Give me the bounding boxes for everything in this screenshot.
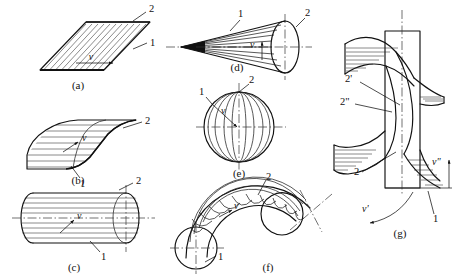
axial-velocity-label: v" (432, 156, 441, 167)
label-a-directrix: 2 (149, 3, 154, 14)
label-e-generatrix: 1 (199, 86, 204, 97)
label-e-directrix: 2 (249, 74, 254, 85)
figure-canvas: v 2 1 (a) v 2 1 (b) (0, 0, 462, 279)
label-a-generatrix: 1 (150, 37, 155, 48)
leader-line-g-2 (362, 152, 396, 172)
leader-line-d-2 (296, 18, 305, 27)
rotational-velocity-label: v' (362, 203, 369, 214)
leader-line-e-1 (206, 97, 212, 104)
velocity-label-c: v (77, 210, 82, 221)
velocity-label-d: v (250, 39, 255, 50)
helicoid-flight-mid-bottom (420, 103, 444, 105)
technical-figure-sheet: v 2 1 (a) v 2 1 (b) (0, 0, 462, 279)
label-g-directrix-dprime: 2" (340, 96, 350, 107)
torus-outer-arc (186, 186, 310, 258)
label-d-generatrix: 1 (238, 8, 243, 19)
caption-d: (d) (231, 61, 244, 74)
panel-a-plane: v 2 1 (a) (32, 3, 158, 92)
label-c-directrix: 2 (136, 175, 141, 186)
panel-b-curved-sheet: v 2 1 (b) (20, 115, 150, 189)
leader-line-f-2 (258, 180, 266, 195)
velocity-arrow-c (60, 220, 74, 233)
leader-line-d-1 (230, 20, 240, 31)
leader-line-e-2 (239, 84, 249, 92)
leader-line-g-2dprime (355, 104, 392, 112)
velocity-label-a: v (89, 51, 94, 62)
label-g-directrix-prime: 2' (345, 73, 352, 84)
panel-c-cylinder: v 2 1 (c) (12, 175, 155, 274)
helicoid-flight-lower-left-top (334, 131, 385, 147)
helicoid-shaft (385, 31, 420, 188)
velocity-label-b: v (82, 132, 87, 143)
label-c-generatrix: 1 (101, 251, 106, 262)
caption-c: (c) (68, 261, 81, 274)
velocity-label-f: v (234, 200, 239, 211)
leader-line-g-1 (428, 191, 434, 214)
label-g-generatrix: 1 (433, 213, 438, 224)
label-f-generatrix: 1 (218, 251, 223, 262)
caption-f: (f) (263, 261, 274, 274)
label-f-directrix: 2 (266, 171, 271, 182)
helicoid-flight-upper-front (345, 37, 414, 78)
helicoid-mid-hatching (420, 97, 443, 101)
panel-g-helicoid: v" v' 2' 2" 2 1 (g) (334, 10, 452, 240)
curved-sheet-outline (27, 120, 136, 169)
leader-line-a-1 (133, 43, 147, 49)
velocity-label-e: v (221, 105, 226, 116)
helicoid-helix-front-descending (396, 52, 413, 154)
panel-e-sphere: v 1 2 (e) (196, 74, 286, 180)
caption-g: (g) (394, 227, 407, 240)
label-g-directrix: 2 (354, 166, 359, 177)
caption-b: (b) (72, 174, 85, 187)
leader-line-a-2 (133, 12, 146, 21)
rotational-velocity-arrow (370, 192, 413, 223)
panel-f-torus: v 2 1 (f) (170, 171, 332, 274)
label-b-directrix: 2 (145, 115, 150, 126)
helicoid-flight-mid-top (414, 78, 444, 97)
panel-d-cone: v 1 2 (d) (166, 7, 312, 80)
caption-a: (a) (72, 79, 85, 92)
label-d-directrix: 2 (305, 7, 310, 18)
